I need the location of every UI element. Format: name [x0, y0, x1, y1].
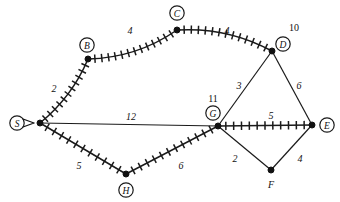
hatch-mark: [169, 30, 174, 37]
hatch-mark: [45, 124, 49, 131]
hatch-mark: [218, 28, 219, 36]
annotation-annot-d: 10: [289, 22, 299, 33]
node-label-f: F: [267, 179, 275, 190]
node-point-b[interactable]: [85, 56, 91, 62]
hatch-mark: [110, 162, 114, 169]
node-point-f[interactable]: [268, 167, 274, 173]
annotation-annot-g: 11: [208, 93, 218, 104]
edge-f-e: [271, 125, 312, 170]
node-point-c[interactable]: [174, 27, 180, 33]
edge-weight-g-e: 5: [269, 110, 274, 121]
node-label-b: B: [84, 41, 90, 51]
node-point-h[interactable]: [123, 171, 129, 177]
hatch-mark: [88, 149, 92, 156]
hatch-mark: [74, 141, 78, 148]
node-label-h: H: [122, 186, 131, 196]
node-point-e[interactable]: [309, 122, 315, 128]
hatch-mark: [81, 145, 85, 152]
edge-weight-s-h: 5: [77, 160, 82, 171]
hatch-mark: [67, 136, 71, 143]
hatch-mark: [108, 53, 109, 61]
edge-d-e: [272, 51, 312, 125]
hatch-mark: [102, 158, 106, 165]
edge-weight-h-g: 6: [179, 160, 184, 171]
node-label-c: C: [174, 9, 181, 19]
node-label-e: E: [323, 121, 330, 131]
hatch-mark: [65, 91, 72, 96]
hatch-mark: [212, 27, 213, 35]
edge-weight-g-d: 3: [236, 80, 242, 91]
hatch-mark: [59, 132, 63, 139]
edge-weight-f-e: 4: [298, 153, 303, 164]
hatch-mark: [232, 31, 234, 39]
hatch-mark: [68, 86, 75, 91]
edge-weight-g-f: 2: [233, 153, 238, 164]
hatch-mark: [95, 153, 99, 160]
edge-weight-c-d: 4: [225, 25, 230, 36]
edge-weight-b-c: 4: [128, 25, 133, 36]
edge-g-f: [218, 126, 271, 170]
edge-s-g: [40, 123, 218, 126]
node-point-g[interactable]: [215, 123, 221, 129]
node-point-s[interactable]: [37, 120, 43, 126]
node-point-d[interactable]: [269, 48, 275, 54]
hatch-mark: [95, 55, 96, 63]
hatch-mark: [52, 128, 56, 135]
hatch-mark: [205, 26, 206, 34]
graph-canvas: SBCDEFGH 244125636524 1011: [0, 0, 340, 202]
node-label-s: S: [15, 119, 20, 129]
node-label-g: G: [210, 109, 217, 119]
hatch-mark: [114, 52, 116, 60]
edge-g-d: [218, 51, 272, 126]
edge-s-b: [40, 59, 88, 123]
hatch-mark: [72, 81, 79, 85]
edge-weight-s-b: 2: [52, 83, 57, 94]
annotation-layer: 1011: [208, 22, 299, 104]
hatch-mark: [121, 51, 123, 59]
hatch-mark: [117, 166, 121, 173]
hatch-mark: [101, 54, 102, 62]
graph-diagram: SBCDEFGH 244125636524 1011: [0, 0, 340, 202]
edge-weight-d-e: 6: [297, 80, 302, 91]
edge-weight-s-g: 12: [126, 111, 136, 122]
node-label-d: D: [279, 40, 287, 50]
